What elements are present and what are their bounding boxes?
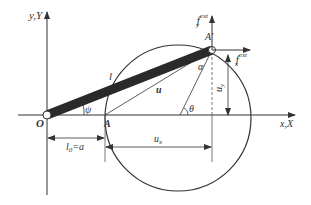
point-A-prime-label: A' <box>204 31 214 42</box>
theta-arc <box>184 108 188 115</box>
u-vector-label: u <box>156 84 162 95</box>
ux-label: ux <box>154 133 163 146</box>
origin-label: O <box>36 117 44 129</box>
theta-label: θ <box>189 103 194 114</box>
pivot-O <box>43 111 51 119</box>
l0-label: l0=a <box>66 141 84 154</box>
fx-label: fextx <box>234 51 248 68</box>
bar-length-label: l <box>109 70 112 82</box>
x-axis-label: x,X <box>279 118 294 129</box>
rigid-bar <box>47 50 212 115</box>
y-axis-label: y,Y <box>28 9 44 21</box>
psi-label: ψ <box>85 104 92 115</box>
fy-label: fexty <box>195 12 209 29</box>
alpha-label: α <box>198 61 204 72</box>
uy-label: uy <box>213 83 226 92</box>
point-A-label: A <box>103 118 111 129</box>
rotating-bar-diagram: y,Y x,X O A A' l u ψ θ α ux uy l0=a fext… <box>0 0 311 205</box>
psi-arc <box>83 104 84 115</box>
